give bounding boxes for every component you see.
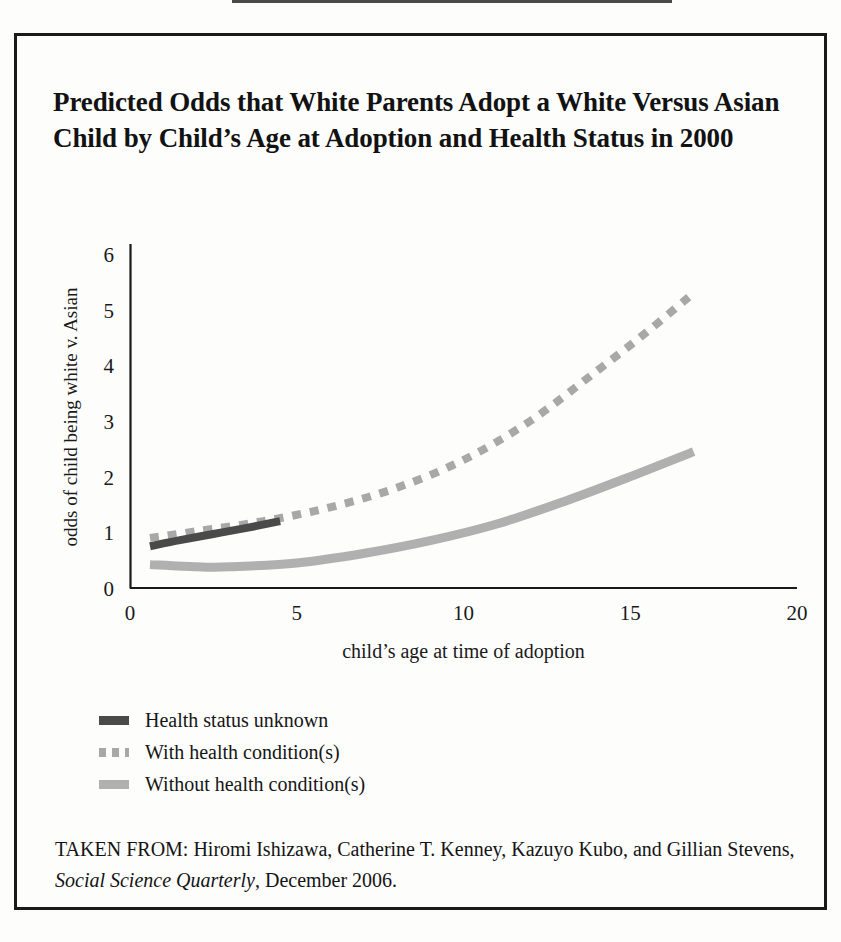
- legend-label-0: Health status unknown: [145, 710, 328, 730]
- legend-swatch-dashed-icon: [99, 748, 129, 757]
- y-tick-label: 1: [104, 521, 115, 545]
- x-tick-label: 5: [292, 601, 303, 625]
- legend-item-1: With health condition(s): [99, 736, 719, 768]
- x-tick-label: 0: [125, 601, 136, 625]
- series-line: [150, 293, 694, 538]
- source-journal: Social Science Quarterly: [55, 869, 255, 891]
- legend-swatch-solid-light-icon: [99, 780, 129, 789]
- y-tick-label: 5: [104, 299, 115, 323]
- y-tick-label: 0: [104, 577, 115, 601]
- source-attribution: TAKEN FROM: Hiromi Ishizawa, Catherine T…: [55, 834, 795, 896]
- chart-legend: Health status unknown With health condit…: [99, 704, 719, 800]
- plot-area: odds of child being white v. Asian 01234…: [17, 36, 841, 736]
- series-line: [150, 452, 694, 568]
- chart-svg: 0123456 05101520: [17, 36, 841, 736]
- legend-item-0: Health status unknown: [99, 704, 719, 736]
- source-prefix: TAKEN FROM: Hiromi Ishizawa, Catherine T…: [55, 838, 795, 860]
- series-paths: [150, 293, 694, 567]
- y-tick-labels: 0123456: [104, 243, 115, 601]
- x-tick-label: 20: [787, 601, 808, 625]
- x-axis-label: child’s age at time of adoption: [130, 640, 797, 663]
- page-top-rule: [232, 0, 672, 3]
- legend-label-2: Without health condition(s): [145, 774, 365, 794]
- source-suffix: , December 2006.: [255, 869, 397, 891]
- legend-label-1: With health condition(s): [145, 742, 340, 762]
- legend-swatch-solid-dark-icon: [99, 716, 129, 725]
- y-tick-label: 2: [104, 466, 115, 490]
- y-tick-label: 4: [104, 354, 115, 378]
- y-tick-label: 6: [104, 243, 115, 267]
- y-tick-label: 3: [104, 410, 115, 434]
- figure-frame: Predicted Odds that White Parents Adopt …: [14, 33, 827, 910]
- x-tick-label: 15: [620, 601, 641, 625]
- scanned-page: Predicted Odds that White Parents Adopt …: [0, 0, 841, 942]
- x-tick-label: 10: [453, 601, 474, 625]
- x-tick-labels: 05101520: [125, 601, 808, 625]
- legend-item-2: Without health condition(s): [99, 768, 719, 800]
